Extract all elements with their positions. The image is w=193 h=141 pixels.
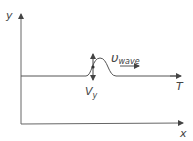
y-axis-label: y: [5, 9, 13, 22]
wave-velocity-label: υwave: [111, 50, 140, 66]
x-axis: [21, 123, 183, 124]
string-with-pulse: [21, 58, 178, 76]
tension-label: T: [176, 80, 184, 93]
wave-pulse-diagram: y x T υwave Vy: [0, 0, 193, 141]
x-axis-label: x: [179, 127, 187, 140]
point-on-string: [91, 65, 94, 68]
transverse-velocity-label: Vy: [85, 85, 98, 100]
